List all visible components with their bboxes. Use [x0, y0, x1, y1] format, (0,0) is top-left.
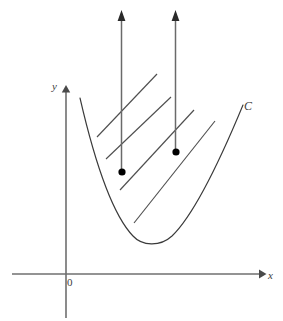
vector-left-base-dot: [118, 168, 125, 175]
hatch-line-3: [120, 110, 194, 190]
x-axis-arrowhead: [259, 270, 267, 279]
figure-canvas: y x 0 C: [0, 0, 283, 321]
vector-right-arrowhead: [172, 10, 180, 21]
figure-svg: [0, 0, 283, 321]
axes-group: [12, 85, 267, 318]
vector-left-group: [118, 10, 126, 176]
hatch-line-4: [134, 121, 215, 223]
curve-group: [80, 98, 243, 244]
parabola-curve-c: [80, 98, 243, 244]
vector-right-base-dot: [172, 148, 179, 155]
vector-left-arrowhead: [118, 10, 126, 21]
curve-label-c: C: [244, 100, 252, 112]
y-axis-arrowhead: [62, 85, 70, 93]
x-axis-label: x: [268, 270, 273, 281]
origin-label: 0: [67, 277, 73, 288]
hatch-line-1: [97, 74, 157, 137]
y-axis-label: y: [52, 81, 57, 92]
hatch-line-2: [106, 97, 171, 159]
